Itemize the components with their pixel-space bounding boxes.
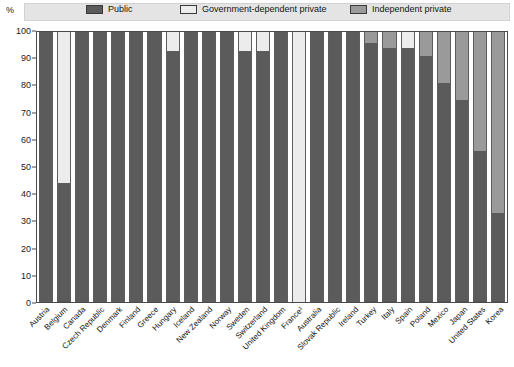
bar-segment-government-dependent-private [58,32,70,183]
stacked-bar [419,32,433,302]
bar-slot [182,32,200,302]
stacked-bar [39,32,53,302]
stacked-bar [292,32,306,302]
y-tick-label: 90 [21,53,31,63]
bar-segment-government-dependent-private [293,32,305,302]
bar-slot [236,32,254,302]
stacked-bar [346,32,360,302]
legend-label-independent-private: Independent private [372,4,452,14]
bar-segment-public [112,32,124,302]
legend-label-government-dependent-private: Government-dependent private [202,4,327,14]
bar-slot [453,32,471,302]
bar-segment-public [383,48,395,302]
stacked-bar [75,32,89,302]
x-tick: Slovak Republic [326,304,344,366]
bar-segment-public [94,32,106,302]
x-tick: Austria [36,304,54,366]
x-tick: New Zealand [199,304,217,366]
bar-segment-public [58,183,70,302]
axis-unit-label: % [6,5,14,15]
bar-slot [127,32,145,302]
x-tick: Denmark [109,304,127,366]
bar-slot [91,32,109,302]
bar-segment-independent-private [383,32,395,48]
x-tick: Norway [218,304,236,366]
x-tick: Ireland [345,304,363,366]
legend-item-government-dependent-private: Government-dependent private [180,4,327,14]
x-tick: Korea [490,304,508,366]
bar-segment-public [420,56,432,302]
bar-slot [435,32,453,302]
y-tick-label: 50 [21,162,31,172]
stacked-bar [382,32,396,302]
bar-segment-public [203,32,215,302]
bar-segment-public [221,32,233,302]
bar-segment-public [402,48,414,302]
bar-slot [272,32,290,302]
bar-slot [399,32,417,302]
y-tick-label: 80 [21,80,31,90]
stacked-bar [437,32,451,302]
bar-segment-public [311,32,323,302]
x-tick: Poland [417,304,435,366]
y-tick-label: 0 [26,298,31,308]
bar-segment-public [185,32,197,302]
x-tick: Finland [127,304,145,366]
bar-slot [145,32,163,302]
legend-swatch-public [86,5,103,14]
y-tick-label: 10 [21,271,31,281]
legend-item-independent-private: Independent private [350,4,452,14]
stacked-bar [364,32,378,302]
stacked-bar [129,32,143,302]
stacked-bar [473,32,487,302]
x-tick: United Kingdom [272,304,290,366]
x-tick: United States [472,304,490,366]
bar-segment-public [239,51,251,302]
bar-slot [218,32,236,302]
bar-segment-government-dependent-private [167,32,179,51]
chart-root: % Public Government-dependent private In… [0,0,514,367]
bar-segment-independent-private [456,32,468,100]
bar-group [37,32,507,302]
bar-slot [417,32,435,302]
bar-slot [55,32,73,302]
bar-segment-public [365,43,377,302]
y-tick-label: 30 [21,216,31,226]
legend-item-public: Public [86,4,133,14]
bar-segment-government-dependent-private [239,32,251,51]
y-tick-label: 100 [16,26,31,36]
stacked-bar [147,32,161,302]
bar-slot [308,32,326,302]
bar-segment-public [456,100,468,303]
y-tick-label: 20 [21,244,31,254]
stacked-bar [93,32,107,302]
bar-segment-independent-private [420,32,432,56]
x-tick: Italy [381,304,399,366]
y-tick-label: 40 [21,189,31,199]
plot-area [36,31,508,303]
bar-segment-government-dependent-private [257,32,269,51]
bar-slot [326,32,344,302]
bar-segment-public [474,151,486,302]
stacked-bar [274,32,288,302]
bar-slot [290,32,308,302]
bar-segment-independent-private [492,32,504,213]
legend-swatch-independent-private [350,5,367,14]
stacked-bar [184,32,198,302]
bar-segment-public [438,83,450,302]
bar-slot [254,32,272,302]
bar-slot [344,32,362,302]
bar-segment-public [257,51,269,302]
bar-segment-public [76,32,88,302]
bar-segment-public [329,32,341,302]
legend-label-public: Public [108,4,133,14]
y-tick-label: 70 [21,108,31,118]
bar-slot [37,32,55,302]
x-tick: Greece [145,304,163,366]
stacked-bar [455,32,469,302]
legend-swatch-government-dependent-private [180,5,197,14]
stacked-bar [238,32,252,302]
stacked-bar [310,32,324,302]
x-tick: Turkey [363,304,381,366]
stacked-bar [256,32,270,302]
